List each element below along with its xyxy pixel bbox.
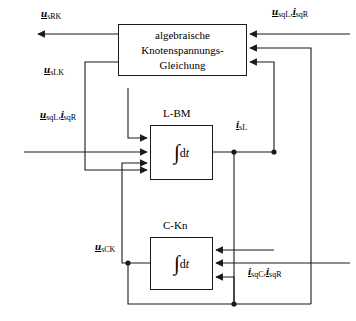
differential-var-lbm: t <box>186 146 189 160</box>
signal-subscript: sLK <box>50 67 64 78</box>
differential-var-ckn: t <box>186 257 189 271</box>
signal-label-u-sck: usCK <box>95 241 115 255</box>
signal-label-usql-isqr-top: usqL,isqR <box>272 6 308 20</box>
signal-label-i-sl: isL <box>236 119 247 133</box>
junction-dot-bottom <box>231 301 236 306</box>
c-kn-label: C-Kn <box>163 219 187 231</box>
signal-subscript: sCK <box>101 244 115 255</box>
signal-subscript: sqL <box>278 9 290 20</box>
wire-usck-to-lbm <box>122 163 150 263</box>
integral-expression-ckn: ∫dt <box>174 254 189 273</box>
signal-subscript: sqR <box>269 269 281 280</box>
signal-subscript: sqL <box>46 112 58 123</box>
main-block[interactable]: algebraische Knotenspannungs- Gleichung <box>118 24 247 76</box>
block-diagram: algebraische Knotenspannungs- Gleichung … <box>0 0 356 321</box>
wire-bottomrail-to-ckn <box>216 277 234 304</box>
c-kn-block[interactable]: ∫dt <box>150 237 213 290</box>
wire-main-feedback-to-lbm <box>128 88 147 138</box>
wire-uslk-to-lbm <box>85 62 147 170</box>
signal-subscript: sRK <box>47 11 61 22</box>
junction-dot-isl <box>271 149 276 154</box>
integral-expression-lbm: ∫dt <box>174 143 189 162</box>
main-block-line-3: Gleichung <box>160 58 206 73</box>
signal-subscript: sqR <box>64 112 76 123</box>
main-block-line-2: Knotenspannungs- <box>141 43 224 58</box>
signal-label-u-srk: usRK <box>41 8 61 22</box>
junction-dot-usck <box>125 260 130 265</box>
signal-subscript: sqC <box>251 269 263 280</box>
junction-dot-isl-branch <box>231 149 236 154</box>
main-block-line-1: algebraische <box>155 28 210 43</box>
signal-label-isqc-isqr: isqC,isqR <box>248 266 282 280</box>
wire-isl-to-main <box>250 62 274 152</box>
l-bm-label: L-BM <box>163 107 191 119</box>
signal-label-u-slk: usLK <box>44 64 64 78</box>
signal-subscript: sL <box>239 122 247 133</box>
signal-label-usql-isqr-left: usqL,isqR <box>40 109 76 123</box>
signal-subscript: sqR <box>296 9 308 20</box>
l-bm-block[interactable]: ∫dt <box>150 125 213 180</box>
